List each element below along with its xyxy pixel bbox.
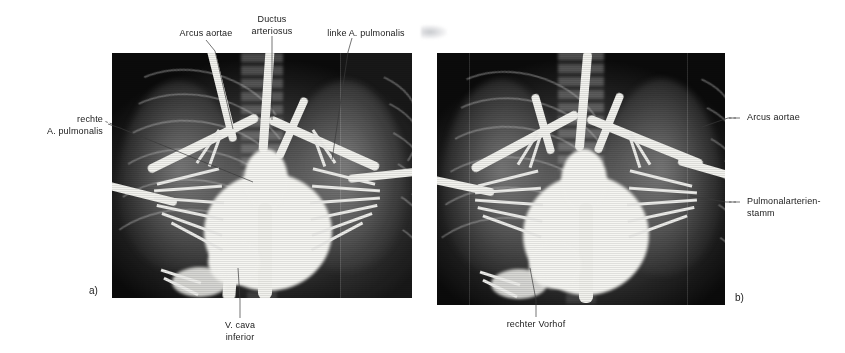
- leader-tick-rechte-a-pulmonalis: [104, 121, 112, 124]
- xray-image-a: [112, 53, 412, 298]
- label-ductus-arteriosus: Ductus arteriosus: [230, 14, 314, 37]
- label-arcus-aortae-b: Arcus aortae: [747, 112, 843, 124]
- label-rechte-a-pulmonalis: rechte A. pulmonalis: [6, 114, 103, 137]
- label-v-cava-inferior: V. cava inferior: [198, 320, 282, 343]
- xray-panel-b: [437, 53, 725, 305]
- print-smudge-artifact: [421, 25, 447, 39]
- print-halftone-b: [437, 53, 725, 305]
- angiography-figure: Arcus aortae Ductus arteriosus linke A. …: [0, 0, 845, 353]
- panel-tag-a: a): [89, 285, 98, 296]
- panel-tag-b: b): [735, 292, 744, 303]
- xray-image-b: [437, 53, 725, 305]
- label-rechter-vorhof: rechter Vorhof: [487, 319, 585, 331]
- label-pulmonalarterienstamm: Pulmonalarterien- stamm: [747, 196, 845, 219]
- label-linke-a-pulmonalis: linke A. pulmonalis: [311, 28, 421, 40]
- print-halftone-a: [112, 53, 412, 298]
- xray-panel-a: [112, 53, 412, 298]
